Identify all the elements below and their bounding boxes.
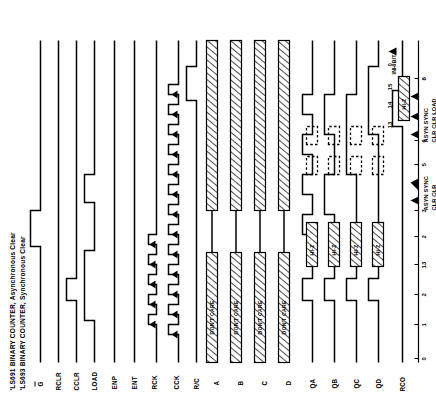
dont-care-label-a: DON'T CARE bbox=[208, 300, 214, 334]
bar-a-right bbox=[206, 40, 217, 210]
count-ticks bbox=[414, 78, 418, 358]
dont-care-label-b: DON'T CARE bbox=[232, 300, 238, 334]
waveform-rck bbox=[148, 40, 156, 362]
count-number-0: 0 bbox=[420, 356, 426, 360]
arrow-sync-clr-right bbox=[410, 112, 418, 120]
count-number-2b: 2 bbox=[420, 234, 426, 238]
bar-d-right bbox=[278, 40, 289, 210]
annotation-left-line-1: ASYN SYNC bbox=[422, 176, 428, 210]
bar-c-right bbox=[254, 40, 265, 210]
rco-count-14: 14 bbox=[386, 101, 392, 108]
clock-edge-arrows bbox=[149, 90, 177, 338]
waveform-qc bbox=[346, 40, 356, 362]
annotation-left-line-2: CLR CLR bbox=[430, 184, 436, 210]
count-number-8: 8 bbox=[420, 76, 426, 80]
waveform-qd bbox=[368, 40, 378, 362]
undef-box-qd-1 bbox=[372, 156, 383, 174]
waveform-qa bbox=[302, 40, 312, 362]
q-output-waveforms bbox=[302, 40, 378, 362]
undef-box-qc-2 bbox=[350, 126, 361, 144]
bar-b-right bbox=[230, 40, 241, 210]
dont-care-label-c: DON'T CARE bbox=[256, 300, 262, 334]
rco-count-13: 13 bbox=[386, 121, 392, 128]
waveform-load bbox=[84, 40, 94, 362]
waveform-g-trace bbox=[30, 40, 40, 362]
arrow-sync-clr-left bbox=[410, 178, 418, 190]
undefined-state-boxes bbox=[306, 126, 383, 174]
hi-z-label-qb: HI-Z bbox=[330, 244, 336, 255]
waveform-qb bbox=[324, 40, 334, 362]
undef-box-qb-1 bbox=[328, 156, 339, 174]
data-bus-bars bbox=[206, 40, 289, 362]
waveform-g bbox=[34, 40, 44, 362]
waveform-cclr bbox=[66, 40, 76, 362]
rco-count-0: 0 bbox=[386, 62, 392, 66]
hi-z-label-qc: HI-Z bbox=[352, 244, 358, 255]
dont-care-label-d: DON'T CARE bbox=[280, 300, 286, 334]
count-number-1: 1 bbox=[420, 322, 426, 326]
rco-count-15: 15 bbox=[386, 83, 392, 90]
waveform-rc bbox=[186, 40, 196, 362]
arrow-sync-load-right bbox=[410, 92, 418, 100]
hi-z-label-qa: HI-Z bbox=[308, 244, 314, 255]
arrow-asyn-clr-left bbox=[410, 196, 418, 204]
count-number-5: 5 bbox=[420, 162, 426, 166]
count-number-2: 2 bbox=[420, 292, 426, 296]
annotation-right-line-2: CLR CLR LOAD bbox=[430, 98, 436, 142]
undef-box-qc-1 bbox=[350, 156, 361, 174]
hi-z-label-qd: HI-Z bbox=[374, 244, 380, 255]
arrow-asyn-clr-right bbox=[410, 130, 418, 138]
count-number-13: 13 bbox=[420, 261, 426, 268]
undef-box-qa-1 bbox=[306, 156, 317, 174]
hi-z-label-rco: HI-Z bbox=[400, 98, 406, 109]
annotation-right-line-1: ASYN SYNC bbox=[422, 108, 428, 142]
hi-z-boxes bbox=[306, 76, 409, 266]
